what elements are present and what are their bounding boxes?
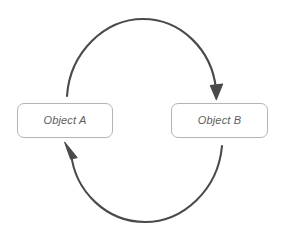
node-object-a-label: Object A [44, 115, 87, 126]
node-object-b-label: Object B [198, 115, 241, 126]
node-object-b[interactable]: Object B [171, 103, 268, 138]
connector-a-to-b[interactable] [67, 19, 223, 100]
node-object-a[interactable]: Object A [17, 103, 113, 138]
connector-b-to-a[interactable] [65, 142, 222, 222]
arc-a-to-b-path [67, 19, 216, 96]
diagram-canvas: Object A Object B [0, 0, 290, 242]
arrowhead-into-object-a [65, 142, 77, 159]
arc-b-to-a-path [71, 146, 222, 222]
arrowhead-into-object-b [210, 84, 222, 100]
